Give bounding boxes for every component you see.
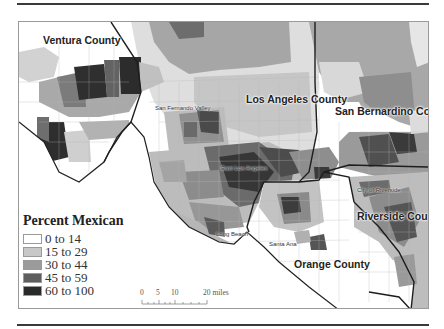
city-label-long-beach: Long Beach: [216, 231, 248, 237]
legend-swatch-15-29: [23, 247, 42, 257]
legend-item: 60 to 100: [23, 284, 123, 297]
legend: Percent Mexican 0 to 14 15 to 29 30 to 4…: [23, 213, 123, 297]
county-label-ventura: Ventura County: [43, 34, 121, 46]
county-label-riverside: Riverside County: [357, 210, 429, 222]
legend-swatch-45-59: [23, 273, 42, 283]
legend-label: 60 to 100: [45, 283, 94, 299]
legend-swatch-0-14: [23, 234, 42, 244]
county-label-orange: Orange County: [294, 258, 370, 270]
city-label-san-fernando-valley: San Fernando Valley: [155, 105, 211, 111]
scale-bar-ruler: [140, 288, 230, 308]
bottom-rule: [17, 324, 429, 326]
county-label-san-bernardino: San Bernardino County: [335, 105, 429, 117]
legend-title: Percent Mexican: [23, 213, 123, 229]
map-frame: Ventura County Los Angeles County San Be…: [18, 21, 429, 309]
city-label-city-of-riverside: City of Riverside: [357, 187, 401, 193]
scale-bar: 0 5 10 20 miles: [140, 288, 230, 308]
city-label-east-los-angeles: East Los Angeles: [221, 165, 267, 171]
city-label-santa-ana: Santa Ana: [269, 241, 297, 247]
legend-swatch-60-100: [23, 286, 42, 296]
top-rule: [17, 3, 429, 5]
legend-swatch-30-44: [23, 260, 42, 270]
county-label-los-angeles: Los Angeles County: [246, 93, 347, 105]
